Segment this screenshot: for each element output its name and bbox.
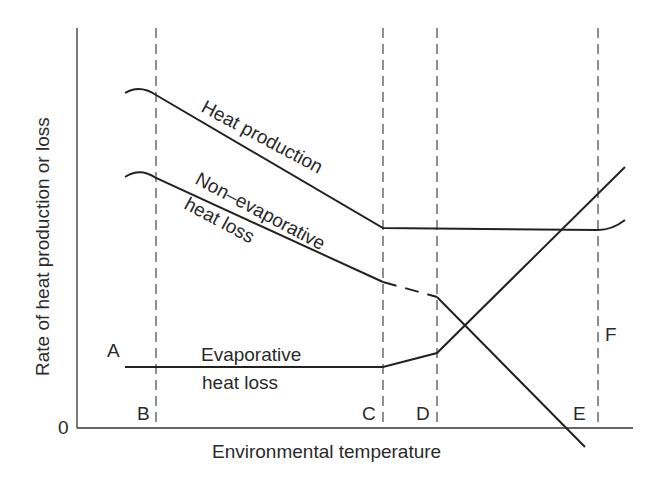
evaporative-label-line2: heat loss: [202, 372, 278, 393]
marker-f: F: [605, 324, 617, 345]
evaporative-label-line1: Evaporative: [201, 344, 301, 365]
thermoregulation-diagram: Heat production Non–evaporative heat los…: [0, 0, 659, 477]
y-origin-label: 0: [58, 417, 69, 438]
heat-production-label: Heat production: [198, 96, 326, 178]
marker-e: E: [573, 403, 586, 424]
y-axis-label: Rate of heat production or loss: [32, 117, 53, 376]
marker-a: A: [107, 340, 120, 361]
marker-c: C: [362, 403, 376, 424]
x-axis-label: Environmental temperature: [212, 441, 441, 462]
marker-b: B: [137, 403, 150, 424]
non-evaporative-dashed-segment: [383, 282, 437, 297]
non-evaporative-steep-segment: [437, 297, 585, 447]
marker-d: D: [416, 403, 430, 424]
